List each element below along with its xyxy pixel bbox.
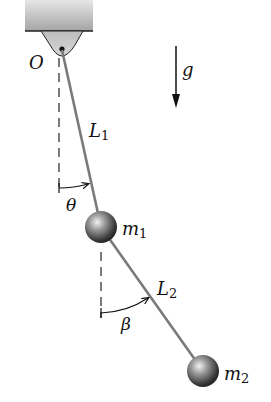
length-1-subscript: 1 — [101, 128, 109, 143]
mass-2-subscript: 2 — [241, 371, 249, 386]
rod-2 — [101, 227, 203, 371]
mass-1-label: m1 — [122, 220, 147, 241]
mass-1-base: m — [122, 218, 139, 239]
ceiling-support — [25, 0, 93, 56]
gravity-label: g — [182, 61, 194, 79]
angle-theta-label: θ — [66, 197, 76, 214]
angle-theta-arc — [59, 183, 88, 193]
length-2-base: L — [157, 278, 169, 299]
mass-2-label: m2 — [224, 365, 249, 386]
length-2-label: L2 — [157, 280, 177, 301]
length-2-subscript: 2 — [169, 286, 177, 301]
angle-beta-label: β — [121, 316, 131, 333]
mass-1-sphere — [85, 211, 117, 243]
mass-2-base: m — [224, 363, 241, 384]
gravity-arrow — [172, 46, 180, 108]
mass-1-subscript: 1 — [139, 226, 147, 241]
length-1-label: L1 — [89, 122, 109, 143]
pivot-label: O — [29, 54, 44, 72]
length-1-base: L — [89, 120, 101, 141]
mass-2-sphere — [187, 355, 219, 387]
